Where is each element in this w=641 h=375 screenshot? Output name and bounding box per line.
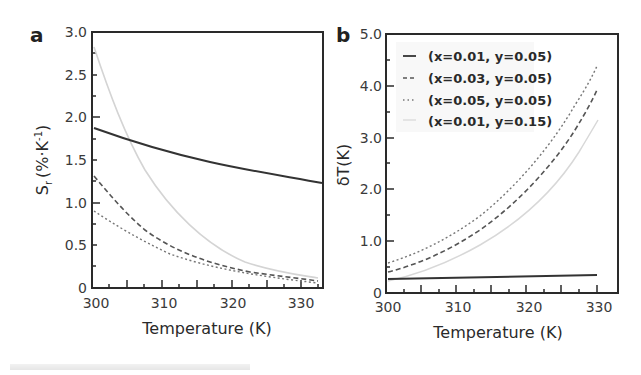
svg-text:330: 330: [288, 295, 315, 311]
panel-a-y-axis-title: Sr(%·K-1): [33, 125, 54, 196]
svg-text:320: 320: [516, 299, 543, 315]
panel-a-y-ticks: [92, 32, 100, 288]
panel-b-x-tick-labels: 300 310 320 330: [375, 299, 613, 315]
svg-text:300: 300: [375, 299, 402, 315]
panel-b-y-tick-labels: 0 1.0 2.0 3.0 4.0 5.0: [360, 26, 382, 301]
panel-a-x-axis-title: Temperature (K): [141, 319, 271, 338]
svg-text:5.0: 5.0: [360, 26, 382, 42]
panel-a: a 0 0.5 1.0 1.5 2.0 2.5 3.0: [30, 23, 323, 338]
panel-a-letter: a: [30, 23, 44, 47]
panel-a-plot-frame: [92, 32, 323, 288]
panel-a-x-tick-labels: 300 310 320 330: [83, 295, 315, 311]
svg-text:1.0: 1.0: [65, 195, 87, 211]
panel-a-series-x0.03-y0.05: [94, 176, 318, 281]
panel-a-series-x0.01-y0.15: [94, 47, 318, 278]
svg-text:3.0: 3.0: [65, 24, 87, 40]
svg-text:0: 0: [78, 280, 87, 296]
svg-text:2.5: 2.5: [65, 67, 87, 83]
panel-b-series-x0.01-y0.05: [388, 275, 597, 279]
panel-a-x-ticks: [92, 280, 318, 288]
svg-text:300: 300: [83, 295, 110, 311]
svg-text:2.0: 2.0: [360, 181, 382, 197]
panel-b-y-axis-title: δT(K): [334, 144, 353, 187]
svg-text:4.0: 4.0: [360, 78, 382, 94]
svg-text:320: 320: [220, 295, 247, 311]
panel-b-legend: (x=0.01, y=0.05) (x=0.03, y=0.05) (x=0.0…: [396, 42, 552, 132]
svg-text:330: 330: [586, 299, 613, 315]
panel-a-y-tick-labels: 0 0.5 1.0 1.5 2.0 2.5 3.0: [65, 24, 87, 296]
panel-b-x-axis-title: Temperature (K): [432, 323, 562, 342]
figure-caption-fragment: [10, 364, 250, 370]
legend-item-4: (x=0.01, y=0.15): [428, 114, 552, 129]
svg-text:1.5: 1.5: [65, 152, 87, 168]
panel-b-x-ticks: [386, 285, 597, 293]
legend-item-3: (x=0.05, y=0.05): [428, 93, 552, 108]
panel-b-y-ticks: [386, 34, 394, 293]
svg-text:1.0: 1.0: [360, 233, 382, 249]
panel-b-letter: b: [336, 23, 350, 47]
panel-b-series-x0.01-y0.15: [388, 120, 598, 281]
svg-text:3.0: 3.0: [360, 130, 382, 146]
svg-text:310: 310: [445, 299, 472, 315]
legend-item-2: (x=0.03, y=0.05): [428, 71, 552, 86]
figure: a 0 0.5 1.0 1.5 2.0 2.5 3.0: [0, 0, 641, 375]
panel-b: b 0 1.0 2.0 3.0 4.0 5.0 300: [334, 23, 618, 342]
legend-item-1: (x=0.01, y=0.05): [428, 49, 552, 64]
svg-text:2.0: 2.0: [65, 109, 87, 125]
svg-text:310: 310: [151, 295, 178, 311]
svg-text:0.5: 0.5: [65, 237, 87, 253]
